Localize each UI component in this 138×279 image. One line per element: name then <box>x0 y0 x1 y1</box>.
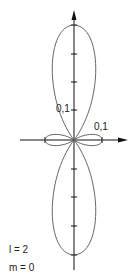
vertical-scale-label: 0,1 <box>56 104 70 114</box>
vertical-arrow-icon <box>72 10 77 20</box>
horizontal-arrow-icon <box>118 138 128 143</box>
m-value-label: m = 0 <box>9 263 34 273</box>
l-value-label: l = 2 <box>9 245 28 255</box>
orbital-diagram <box>0 0 138 279</box>
horizontal-scale-label: 0,1 <box>94 122 108 132</box>
